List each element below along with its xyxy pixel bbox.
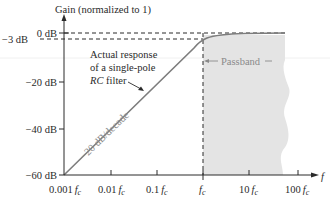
x-label-10fc: 10fc	[239, 184, 258, 197]
svg-text:0.01fc: 0.01fc	[98, 184, 125, 197]
annotation-pointer	[128, 82, 141, 89]
svg-text:10fc: 10fc	[239, 184, 258, 197]
y-label-0db: 0 dB	[37, 28, 57, 39]
y-axis-title: Gain (normalized to 1)	[55, 4, 151, 16]
svg-text:fc: fc	[199, 184, 206, 197]
y-label-minus40db: −40 dB	[26, 124, 57, 135]
x-label-fc: fc	[199, 184, 206, 197]
x-axis-arrow-icon	[311, 173, 319, 178]
passband-label: Passband	[221, 56, 261, 67]
annotation-line-1: Actual response	[90, 49, 158, 60]
svg-text:0.1fc: 0.1fc	[146, 184, 168, 197]
filter-response-chart: Gain (normalized to 1) 0 dB −3 dB −20 dB…	[0, 0, 330, 203]
y-axis-arrow-icon	[62, 14, 67, 21]
x-label-0.1fc: 0.1fc	[146, 184, 168, 197]
y-label-minus60db: −60 dB	[26, 170, 57, 181]
x-label-0.01fc: 0.01fc	[98, 184, 125, 197]
annotation-arrow-icon	[138, 87, 144, 92]
y-label-minus20db: −20 dB	[26, 77, 57, 88]
slope-label: −20 dB/decade	[78, 109, 131, 161]
svg-text:0.001fc: 0.001fc	[49, 184, 82, 197]
x-label-0.001fc: 0.001fc	[49, 184, 82, 197]
annotation-line-2: of a single-pole	[90, 62, 156, 73]
annotation-line-3: RC filter	[89, 75, 127, 86]
x-axis-title: f	[321, 171, 326, 182]
y-label-minus3db: −3 dB	[2, 34, 28, 45]
svg-text:100fc: 100fc	[285, 184, 310, 197]
x-label-100fc: 100fc	[285, 184, 310, 197]
